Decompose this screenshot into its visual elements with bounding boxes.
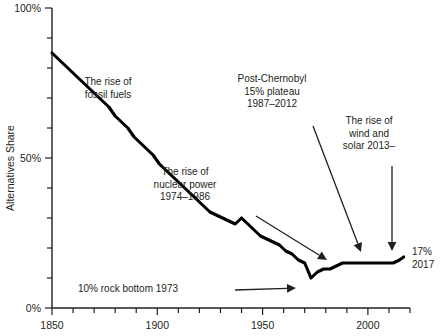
x-tick-label: 1950 bbox=[251, 319, 275, 331]
y-tick-label: 0% bbox=[26, 302, 41, 314]
end-value-label: 17%2017 bbox=[412, 246, 435, 270]
annotation-rock-bottom: 10% rock bottom 1973 bbox=[78, 283, 296, 294]
end-label-text: 17%2017 bbox=[412, 246, 435, 270]
y-tick-label: 50% bbox=[20, 152, 41, 164]
x-axis-ticks bbox=[52, 308, 410, 315]
annotation-arrow-head bbox=[317, 252, 327, 260]
chart-container: 0%50%100% 1850190019502000 Alternatives … bbox=[0, 0, 441, 336]
annotation-label: Post-Chernobyl15% plateau1987–2012 bbox=[238, 73, 307, 109]
alternatives-share-line-chart: 0%50%100% 1850190019502000 Alternatives … bbox=[0, 0, 441, 336]
annotation-label: 10% rock bottom 1973 bbox=[78, 283, 178, 294]
annotation-arrow-shaft bbox=[235, 288, 287, 290]
annotation-post-chernobyl: Post-Chernobyl15% plateau1987–2012 bbox=[238, 73, 362, 252]
y-axis-tick-labels: 0%50%100% bbox=[14, 2, 41, 314]
annotations: The rise offossil fuelsThe rise ofnuclea… bbox=[78, 73, 396, 294]
y-tick-label: 100% bbox=[14, 2, 41, 14]
annotation-wind-and-solar: The rise ofwind andsolar 2013– bbox=[343, 115, 397, 251]
x-tick-label: 1900 bbox=[146, 319, 170, 331]
annotation-arrow-head bbox=[388, 242, 397, 251]
annotation-fossil-fuels: The rise offossil fuels bbox=[84, 76, 131, 100]
annotation-arrow-head bbox=[287, 284, 296, 293]
annotation-label: The rise ofnuclear power1974–1986 bbox=[154, 166, 217, 202]
x-tick-label: 1850 bbox=[40, 319, 64, 331]
annotation-arrow-shaft bbox=[256, 216, 319, 255]
y-axis-title: Alternatives Share bbox=[4, 125, 16, 211]
annotation-nuclear-power: The rise ofnuclear power1974–1986 bbox=[154, 166, 327, 260]
annotation-label: The rise offossil fuels bbox=[84, 76, 131, 100]
x-tick-label: 2000 bbox=[356, 319, 380, 331]
annotation-label: The rise ofwind andsolar 2013– bbox=[343, 115, 396, 151]
x-axis-tick-labels: 1850190019502000 bbox=[40, 319, 379, 331]
